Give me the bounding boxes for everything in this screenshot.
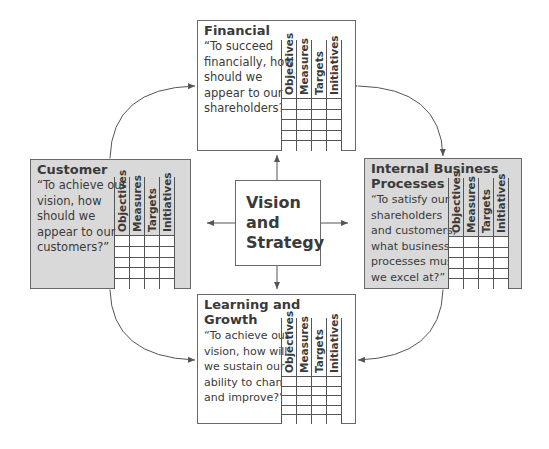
grid-column-header: Objectives: [114, 177, 129, 235]
column-header-label: Objectives: [116, 170, 128, 232]
title-line: Customer: [37, 162, 107, 177]
grid-column-header: Targets: [311, 40, 326, 98]
grid-column-line: [508, 178, 509, 289]
vision-line: Strategy: [246, 233, 324, 253]
grid-column-header: Initiatives: [326, 318, 341, 376]
customer-question: “To achieve our vision, how should we ap…: [37, 178, 126, 256]
customer-scorecard-grid: ObjectivesMeasuresTargetsInitiatives: [114, 177, 175, 289]
grid-column-header: Initiatives: [159, 177, 174, 235]
question-line: customers?”: [37, 240, 126, 256]
curve-financial-internal: [358, 86, 443, 156]
grid-column-header: Initiatives: [493, 178, 508, 236]
grid-column-header: Measures: [129, 177, 144, 235]
internal-question: “To satisfy our shareholders and custome…: [371, 192, 457, 285]
financial-title: Financial: [204, 23, 270, 38]
column-header-label: Measures: [298, 316, 310, 373]
question-line: shareholders: [371, 208, 457, 224]
question-line: “To achieve our: [37, 178, 126, 194]
vision-line: and: [246, 213, 324, 233]
column-header-label: Initiatives: [161, 172, 173, 232]
grid-column-line: [341, 318, 342, 424]
question-line: vision, how: [37, 194, 126, 210]
question-line: what business: [371, 239, 457, 255]
customer-title: Customer: [37, 162, 107, 177]
column-header-label: Objectives: [283, 33, 295, 95]
grid-column-line: [341, 40, 342, 151]
column-header-label: Measures: [465, 176, 477, 233]
column-header-label: Targets: [480, 189, 492, 233]
grid-column-line: [174, 177, 175, 289]
learning-scorecard-grid: ObjectivesMeasuresTargetsInitiatives: [281, 318, 342, 424]
curve-internal-learning: [358, 290, 443, 360]
column-header-label: Initiatives: [328, 35, 340, 95]
column-header-label: Initiatives: [328, 313, 340, 373]
column-header-label: Initiatives: [495, 173, 507, 233]
perspective-internal-business-processes: Internal Business Processes “To satisfy …: [364, 158, 522, 289]
title-line: Internal Business: [371, 161, 498, 176]
grid-column-header: Measures: [296, 318, 311, 376]
column-header-label: Objectives: [450, 171, 462, 233]
question-line: processes must: [371, 254, 457, 270]
column-header-label: Targets: [313, 51, 325, 95]
title-line: Financial: [204, 23, 270, 38]
column-header-label: Measures: [298, 38, 310, 95]
question-line: and customers,: [371, 223, 457, 239]
grid-column-header: Objectives: [281, 40, 296, 98]
grid-column-header: Measures: [296, 40, 311, 98]
grid-column-header: Initiatives: [326, 40, 341, 98]
perspective-learning-and-growth: Learning and Growth “To achieve our visi…: [197, 294, 356, 424]
perspective-customer: Customer “To achieve our vision, how sho…: [30, 159, 191, 289]
grid-column-header: Targets: [144, 177, 159, 235]
vision-and-strategy-box: Vision and Strategy: [235, 180, 321, 266]
curve-customer-financial: [110, 86, 195, 158]
curve-customer-learning: [110, 290, 195, 360]
column-header-label: Objectives: [283, 311, 295, 373]
question-line: should we: [37, 209, 126, 225]
grid-column-header: Targets: [311, 318, 326, 376]
column-header-label: Measures: [131, 175, 143, 232]
column-header-label: Targets: [146, 188, 158, 232]
vision-title: Vision and Strategy: [246, 193, 324, 253]
question-line: “To satisfy our: [371, 192, 457, 208]
financial-scorecard-grid: ObjectivesMeasuresTargetsInitiatives: [281, 40, 342, 151]
question-line: appear to our: [37, 225, 126, 241]
column-header-label: Targets: [313, 329, 325, 373]
grid-column-header: Objectives: [448, 178, 463, 236]
grid-column-header: Objectives: [281, 318, 296, 376]
perspective-financial: Financial “To succeed financially, how s…: [197, 20, 356, 151]
vision-line: Vision: [246, 193, 324, 213]
grid-column-header: Targets: [478, 178, 493, 236]
internal-scorecard-grid: ObjectivesMeasuresTargetsInitiatives: [448, 178, 509, 289]
question-line: we excel at?”: [371, 270, 457, 286]
title-line: Learning and: [204, 297, 300, 312]
grid-column-header: Measures: [463, 178, 478, 236]
